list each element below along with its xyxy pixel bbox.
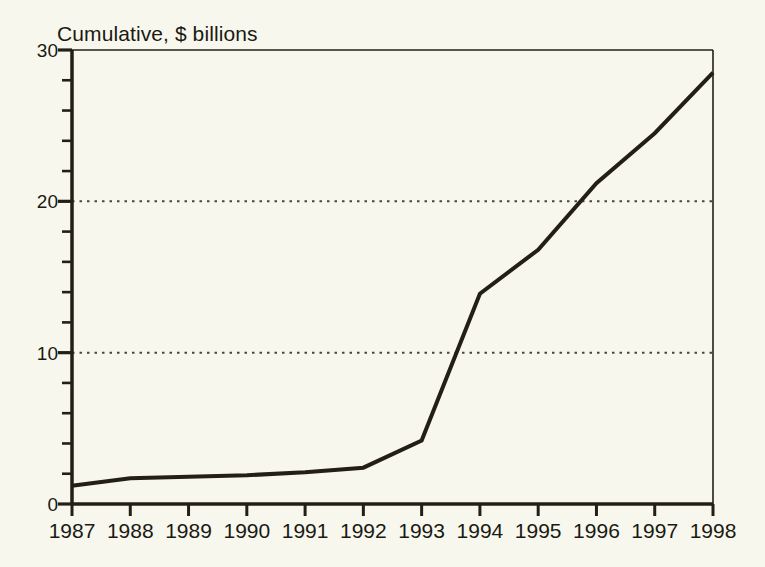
- x-axis-ticks: [72, 504, 713, 516]
- plot-frame: [72, 50, 713, 504]
- y-axis-ticks: [58, 50, 72, 504]
- plot-area: [0, 0, 765, 567]
- gridlines: [72, 201, 713, 352]
- data-series-line: [72, 73, 713, 486]
- chart-container: Cumulative, $ billions 0102030 198719881…: [0, 0, 765, 567]
